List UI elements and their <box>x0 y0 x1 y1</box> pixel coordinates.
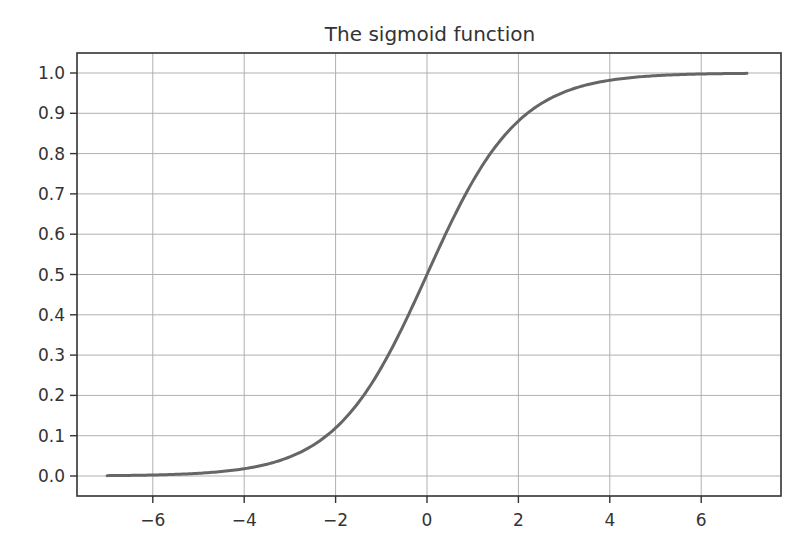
x-tick-label: −6 <box>140 510 165 530</box>
chart-figure: The sigmoid function −6−4−20246 0.00.10.… <box>0 0 807 560</box>
y-tick-label: 0.7 <box>38 184 65 204</box>
x-tick-label: −4 <box>232 510 257 530</box>
y-tick-label: 0.5 <box>38 265 65 285</box>
y-tick-label: 1.0 <box>38 63 65 83</box>
chart-title: The sigmoid function <box>324 22 535 46</box>
grid-lines <box>77 53 781 496</box>
x-tick-label: 2 <box>513 510 524 530</box>
x-tick-label: 0 <box>422 510 433 530</box>
x-tick-label: 4 <box>604 510 615 530</box>
chart-canvas: The sigmoid function −6−4−20246 0.00.10.… <box>0 0 807 560</box>
y-axis: 0.00.10.20.30.40.50.60.70.80.91.0 <box>38 63 77 486</box>
y-tick-label: 0.2 <box>38 385 65 405</box>
y-tick-label: 0.8 <box>38 144 65 164</box>
y-tick-label: 0.1 <box>38 426 65 446</box>
x-tick-label: −2 <box>323 510 348 530</box>
y-tick-label: 0.4 <box>38 305 65 325</box>
y-tick-label: 0.6 <box>38 224 65 244</box>
x-tick-label: 6 <box>696 510 707 530</box>
x-axis: −6−4−20246 <box>140 496 706 530</box>
y-tick-label: 0.0 <box>38 466 65 486</box>
y-tick-label: 0.3 <box>38 345 65 365</box>
y-tick-label: 0.9 <box>38 103 65 123</box>
